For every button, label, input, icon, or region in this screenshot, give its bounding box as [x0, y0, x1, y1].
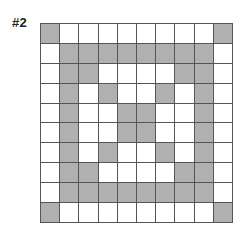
- grid-cell-filled: [118, 183, 136, 202]
- grid-cell-empty: [214, 163, 232, 182]
- grid-cell-filled: [175, 64, 193, 83]
- grid-cell-filled: [195, 183, 213, 202]
- grid-cell-filled: [99, 44, 117, 63]
- pattern-label: #2: [12, 15, 27, 30]
- pattern-grid: [40, 23, 233, 223]
- grid-cell-empty: [41, 84, 59, 103]
- grid-cell-filled: [214, 203, 232, 222]
- grid-cell-filled: [79, 183, 97, 202]
- grid-cell-filled: [41, 24, 59, 43]
- grid-cell-empty: [175, 24, 193, 43]
- grid-cell-filled: [60, 123, 78, 142]
- grid-cell-empty: [41, 123, 59, 142]
- grid-cell-filled: [60, 183, 78, 202]
- grid-cell-empty: [137, 163, 155, 182]
- grid-cell-filled: [156, 44, 174, 63]
- grid-cell-empty: [137, 64, 155, 83]
- grid-cell-filled: [99, 143, 117, 162]
- grid-cell-empty: [79, 24, 97, 43]
- grid-cell-empty: [137, 84, 155, 103]
- grid-cell-filled: [118, 44, 136, 63]
- grid-cell-empty: [60, 203, 78, 222]
- grid-cell-empty: [214, 183, 232, 202]
- grid-cell-empty: [118, 64, 136, 83]
- grid-cell-empty: [79, 203, 97, 222]
- grid-cell-filled: [175, 44, 193, 63]
- grid-cell-empty: [99, 163, 117, 182]
- grid-cell-empty: [137, 24, 155, 43]
- grid-cell-empty: [156, 203, 174, 222]
- grid-cell-empty: [79, 104, 97, 123]
- grid-cell-empty: [118, 84, 136, 103]
- grid-cell-filled: [195, 84, 213, 103]
- grid-cell-empty: [214, 123, 232, 142]
- grid-cell-filled: [195, 163, 213, 182]
- grid-cell-filled: [41, 203, 59, 222]
- grid-cell-filled: [195, 104, 213, 123]
- grid-cell-empty: [137, 143, 155, 162]
- grid-cell-empty: [175, 104, 193, 123]
- grid-cell-empty: [214, 104, 232, 123]
- grid-cell-filled: [195, 123, 213, 142]
- grid-cell-filled: [156, 84, 174, 103]
- grid-cell-filled: [60, 84, 78, 103]
- grid-cell-empty: [41, 44, 59, 63]
- grid-cell-empty: [118, 24, 136, 43]
- grid-cell-empty: [60, 24, 78, 43]
- grid-cell-empty: [41, 104, 59, 123]
- grid-cell-filled: [118, 123, 136, 142]
- grid-cell-filled: [118, 104, 136, 123]
- grid-cell-empty: [118, 203, 136, 222]
- grid-cell-filled: [214, 24, 232, 43]
- grid-cell-filled: [60, 143, 78, 162]
- grid-cell-empty: [137, 203, 155, 222]
- grid-cell-empty: [175, 203, 193, 222]
- grid-cell-empty: [156, 104, 174, 123]
- grid-cell-filled: [175, 183, 193, 202]
- grid-cell-filled: [137, 104, 155, 123]
- grid-cell-filled: [99, 84, 117, 103]
- grid-cell-filled: [79, 44, 97, 63]
- grid-cell-empty: [99, 123, 117, 142]
- grid-cell-empty: [214, 143, 232, 162]
- grid-cell-filled: [137, 183, 155, 202]
- grid-cell-empty: [118, 143, 136, 162]
- grid-cell-empty: [41, 183, 59, 202]
- grid-cell-empty: [41, 143, 59, 162]
- grid-cell-empty: [99, 24, 117, 43]
- grid-cell-filled: [60, 64, 78, 83]
- grid-cell-filled: [60, 104, 78, 123]
- grid-cell-filled: [60, 44, 78, 63]
- grid-cell-filled: [195, 64, 213, 83]
- grid-cell-empty: [118, 163, 136, 182]
- grid-cell-empty: [195, 24, 213, 43]
- grid-cell-empty: [99, 104, 117, 123]
- grid-cell-filled: [195, 143, 213, 162]
- grid-cell-empty: [79, 123, 97, 142]
- grid-cell-empty: [79, 143, 97, 162]
- grid-cell-filled: [99, 183, 117, 202]
- grid-cell-empty: [41, 64, 59, 83]
- grid-cell-empty: [41, 163, 59, 182]
- grid-cell-empty: [214, 84, 232, 103]
- grid-cell-filled: [156, 143, 174, 162]
- grid-cell-filled: [156, 183, 174, 202]
- grid-cell-empty: [79, 84, 97, 103]
- grid-cell-empty: [214, 64, 232, 83]
- grid-cell-filled: [137, 123, 155, 142]
- grid-cell-filled: [79, 64, 97, 83]
- grid-cell-empty: [99, 64, 117, 83]
- grid-cell-empty: [195, 203, 213, 222]
- grid-cell-empty: [175, 143, 193, 162]
- grid-cell-filled: [175, 163, 193, 182]
- grid-cell-empty: [175, 84, 193, 103]
- grid-cell-empty: [156, 123, 174, 142]
- grid-cell-filled: [60, 163, 78, 182]
- grid-cell-empty: [156, 24, 174, 43]
- grid-cell-empty: [175, 123, 193, 142]
- grid-cell-empty: [99, 203, 117, 222]
- grid-cell-empty: [156, 64, 174, 83]
- grid-cell-empty: [156, 163, 174, 182]
- grid-cell-filled: [79, 163, 97, 182]
- grid-cell-empty: [214, 44, 232, 63]
